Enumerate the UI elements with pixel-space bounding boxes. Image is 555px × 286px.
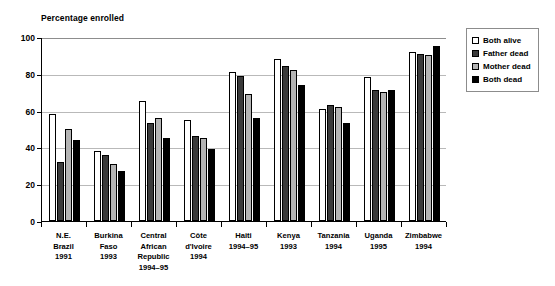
bar <box>57 162 65 221</box>
bar-group <box>42 38 87 221</box>
bar <box>49 114 57 221</box>
x-tick-mark <box>311 222 312 227</box>
x-tick-mark <box>446 222 447 227</box>
legend-swatch-icon <box>472 76 479 83</box>
bar <box>343 123 351 221</box>
y-tick-label-80: 80 <box>9 71 35 80</box>
bar <box>380 92 388 221</box>
bar <box>94 151 102 221</box>
bar <box>327 105 335 221</box>
bar <box>409 52 417 221</box>
legend-label: Mother dead <box>483 63 531 71</box>
legend-label: Both dead <box>483 76 522 84</box>
bar <box>298 85 306 221</box>
bar <box>417 54 425 221</box>
bar <box>229 72 237 221</box>
x-tick-mark <box>401 222 402 227</box>
y-tick-label-100: 100 <box>9 34 35 43</box>
legend-item[interactable]: Both dead <box>472 73 531 86</box>
bar <box>110 164 118 221</box>
x-tick-mark <box>86 222 87 227</box>
bar <box>163 138 171 221</box>
legend-item[interactable]: Mother dead <box>472 60 531 73</box>
bar <box>102 155 110 221</box>
x-tick-mark <box>131 222 132 227</box>
y-tick-label-60: 60 <box>9 108 35 117</box>
bar <box>282 66 290 221</box>
bar <box>200 138 208 221</box>
x-tick-mark <box>221 222 222 227</box>
x-axis-label: Zimbabwe 1994 <box>397 231 450 252</box>
plot-inner <box>42 38 446 221</box>
legend-label: Father dead <box>483 50 528 58</box>
chart-title: Percentage enrolled <box>41 13 124 23</box>
chart-figure: Percentage enrolled 020406080100 N.E. Br… <box>0 0 555 286</box>
bar-group <box>222 38 267 221</box>
legend-label: Both alive <box>483 37 521 45</box>
y-tick-label-40: 40 <box>9 144 35 153</box>
x-tick-mark <box>41 222 42 227</box>
bar <box>208 149 216 221</box>
bar <box>139 101 147 221</box>
bar <box>372 90 380 221</box>
bar <box>425 55 433 221</box>
y-tick-label-20: 20 <box>9 181 35 190</box>
bar <box>253 118 261 221</box>
bar <box>433 46 441 221</box>
bar <box>184 120 192 221</box>
bar <box>245 94 253 221</box>
x-tick-mark <box>176 222 177 227</box>
bar-group <box>357 38 402 221</box>
x-tick-mark <box>356 222 357 227</box>
bar <box>388 90 396 221</box>
bar <box>290 70 298 221</box>
legend-swatch-icon <box>472 63 479 70</box>
bar <box>319 109 327 221</box>
bar <box>147 123 155 221</box>
bar <box>335 107 343 221</box>
bar <box>274 59 282 221</box>
bar <box>237 76 245 221</box>
bar <box>364 77 372 221</box>
bar-group <box>402 38 447 221</box>
y-tick-label-0: 0 <box>9 218 35 227</box>
bar <box>118 171 126 221</box>
bar <box>73 140 81 221</box>
bar-group <box>312 38 357 221</box>
bar <box>65 129 73 221</box>
bar-group <box>132 38 177 221</box>
bar <box>192 136 200 221</box>
bar-group <box>267 38 312 221</box>
legend-swatch-icon <box>472 50 479 57</box>
legend-item[interactable]: Both alive <box>472 34 531 47</box>
legend-item[interactable]: Father dead <box>472 47 531 60</box>
legend-swatch-icon <box>472 37 479 44</box>
plot-area <box>41 38 446 222</box>
chart-legend: Both aliveFather deadMother deadBoth dea… <box>466 28 539 92</box>
bar-group <box>177 38 222 221</box>
x-tick-mark <box>266 222 267 227</box>
bar <box>155 118 163 221</box>
bar-group <box>87 38 132 221</box>
